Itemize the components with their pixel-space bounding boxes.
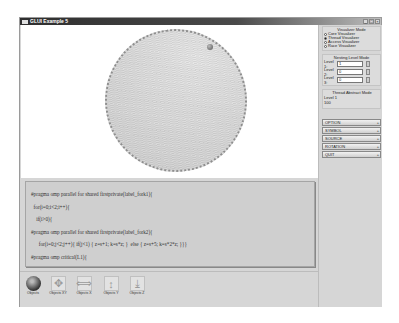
tool-label: Objects XY	[46, 291, 70, 296]
source-button[interactable]: SOURCE +	[322, 135, 381, 142]
objects-x-tool[interactable]: ⟺ Objects X	[76, 276, 92, 300]
minimize-button[interactable]: _	[363, 19, 368, 24]
radio-icon[interactable]	[324, 41, 327, 44]
visualization-canvas[interactable]	[21, 25, 318, 178]
quit-button[interactable]: QUIT +	[322, 151, 381, 158]
quit-label: QUIT	[325, 152, 335, 157]
option-button[interactable]: OPTION +	[322, 119, 381, 126]
source-label: SOURCE	[325, 136, 342, 141]
code-line: #pragma omp critical(L1){	[31, 251, 309, 264]
expand-icon: +	[377, 136, 379, 141]
option-label: OPTION	[325, 120, 340, 125]
sphere-marker	[207, 44, 213, 50]
window-controls: _ □ ×	[363, 18, 380, 24]
symbol-label: SYMBOL	[325, 128, 342, 133]
radio-checked-icon[interactable]	[324, 37, 327, 40]
level-2-spinner-icon[interactable]	[366, 69, 370, 75]
object-toolbar: Objects ✥ Objects XY ⟺ Objects X ↕ Objec…	[20, 271, 318, 307]
visualizer-mode-group: Visualizer Mode Core Visualizer Thread V…	[322, 26, 381, 51]
objects-z-tool[interactable]: ⤓ Objects Z	[129, 276, 145, 300]
title-bar[interactable]: GLUI Example 5 _ □ ×	[20, 18, 381, 25]
objects-rotate-tool[interactable]: Objects	[25, 276, 41, 300]
rotation-label: ROTATION	[325, 144, 345, 149]
tool-label: Objects Z	[125, 291, 149, 296]
level-3-spinner-icon[interactable]	[366, 77, 370, 83]
tool-label: Objects X	[72, 291, 96, 296]
expand-icon: +	[377, 128, 379, 133]
code-line: if(i>0){	[31, 213, 309, 226]
code-line: for(i=0;i<2;i++){	[31, 201, 309, 214]
level-3-input[interactable]: 0	[337, 77, 363, 83]
move-x-icon[interactable]: ⟺	[77, 276, 92, 291]
move-y-icon[interactable]: ↕	[104, 276, 119, 291]
control-panel: Visualizer Mode Core Visualizer Thread V…	[318, 25, 382, 307]
level-3-label: Level 3:	[323, 75, 337, 85]
radio-label: Race Visualizer	[328, 44, 356, 48]
expand-icon: +	[377, 152, 379, 157]
nesting-level-group: Nesting Level Mode Level 1: 1 Level 2: 0…	[322, 54, 381, 86]
thread-abstract-group: Thread Abstract Mode Level 1 100	[322, 89, 381, 109]
tool-label: Objects	[21, 291, 45, 296]
level-1-spinner-icon[interactable]	[366, 61, 370, 67]
code-line: for(i=0;j<2;j++){ if(j<1) { z=s+1; k=s*z…	[31, 238, 309, 251]
close-button[interactable]: ×	[375, 19, 380, 24]
thread-abstract-value: 100	[324, 100, 380, 105]
move-z-icon[interactable]: ⤓	[130, 276, 145, 291]
app-window: GLUI Example 5 _ □ × Visualizer Mode Cor…	[19, 17, 382, 307]
symbol-button[interactable]: SYMBOL +	[322, 127, 381, 134]
sphere-icon[interactable]	[26, 276, 41, 291]
code-line: #pragma omp parallel for shared firstpri…	[31, 188, 309, 201]
level-1-input[interactable]: 1	[337, 61, 363, 67]
tool-label: Objects Y	[99, 291, 123, 296]
maximize-button[interactable]: □	[369, 19, 374, 24]
level-2-input[interactable]: 0	[337, 69, 363, 75]
expand-icon: +	[377, 120, 379, 125]
app-icon	[22, 20, 28, 24]
radio-icon[interactable]	[324, 45, 327, 48]
level-3-row: Level 3: 0	[323, 76, 380, 84]
objects-xy-tool[interactable]: ✥ Objects XY	[50, 276, 66, 300]
radio-icon[interactable]	[324, 33, 327, 36]
move-xy-icon[interactable]: ✥	[51, 276, 66, 291]
objects-y-tool[interactable]: ↕ Objects Y	[103, 276, 119, 300]
code-line: #pragma omp parallel for shared firstpri…	[31, 226, 309, 239]
thread-disk-visualization	[96, 25, 257, 178]
source-code-panel[interactable]: #pragma omp parallel for shared firstpri…	[25, 181, 315, 267]
radio-race-visualizer[interactable]: Race Visualizer	[323, 44, 380, 48]
window-title: GLUI Example 5	[30, 18, 68, 25]
expand-icon: +	[377, 144, 379, 149]
rotation-button[interactable]: ROTATION +	[322, 143, 381, 150]
